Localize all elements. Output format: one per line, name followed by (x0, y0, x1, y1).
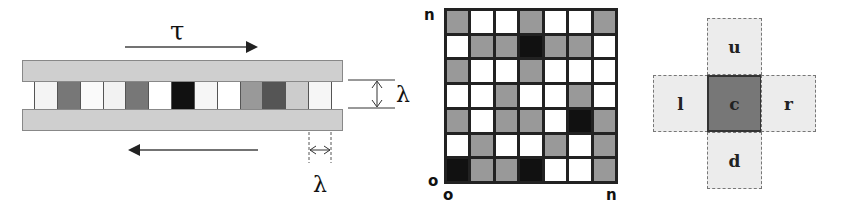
grid-cell (520, 36, 541, 58)
grid-cell (496, 110, 517, 132)
grid-cell (545, 11, 566, 33)
grid-cell (520, 110, 541, 132)
grid-cell (545, 85, 566, 107)
grid-cell (545, 36, 566, 58)
grid-cell (520, 135, 541, 157)
grid-cell (569, 85, 590, 107)
cell-up: u (707, 18, 762, 75)
grid-cell (471, 36, 492, 58)
grid-cell (594, 85, 615, 107)
particle-cell (57, 82, 80, 109)
grid-cell (471, 135, 492, 157)
particle-cell (148, 82, 171, 109)
particle-cell (240, 82, 263, 109)
grid-cell (447, 159, 468, 181)
top-plate (22, 60, 343, 82)
grid-cell (520, 159, 541, 181)
height-lambda-label: λ (396, 84, 410, 106)
y-axis-top-label: n (424, 6, 435, 24)
grid-cell (545, 110, 566, 132)
grid-cell (496, 60, 517, 82)
particle-cell (125, 82, 148, 109)
cell-left: l (653, 75, 708, 132)
grid-cell (471, 11, 492, 33)
grid-cell (594, 11, 615, 33)
grid-cell (471, 110, 492, 132)
particle-cell (285, 82, 308, 109)
grid-cell (545, 135, 566, 157)
grid-cell (471, 85, 492, 107)
grid-cell (594, 60, 615, 82)
grid-cell (496, 135, 517, 157)
particle-cell (262, 82, 285, 109)
particle-cell (171, 82, 194, 109)
grid-cell (545, 159, 566, 181)
grid-cell (594, 110, 615, 132)
grid-cell (520, 60, 541, 82)
grid-cell (520, 85, 541, 107)
grid-cell (447, 36, 468, 58)
grid-cell (447, 135, 468, 157)
grid-cell (471, 159, 492, 181)
cell-center: c (707, 75, 762, 132)
grid-cell (569, 36, 590, 58)
particle-cell (194, 82, 217, 109)
particle-cell (308, 82, 331, 109)
x-axis-end-label: n (606, 186, 617, 204)
particle-cell (217, 82, 240, 109)
grid-cell (447, 11, 468, 33)
grid-cell (520, 11, 541, 33)
cell-down: d (707, 132, 762, 189)
grid-cell (569, 11, 590, 33)
grid-cell (471, 60, 492, 82)
width-lambda-label: λ (313, 174, 327, 196)
grid-cell (496, 85, 517, 107)
x-axis-origin-label: o (443, 186, 453, 204)
grid-cell (594, 159, 615, 181)
bottom-plate (22, 109, 343, 131)
grid-cell (447, 85, 468, 107)
grid-cell (569, 159, 590, 181)
grid-cell (594, 36, 615, 58)
particle-cell (34, 82, 57, 109)
grid-cell (569, 110, 590, 132)
grid-cell (569, 135, 590, 157)
particle-row (34, 82, 332, 109)
particle-cell (103, 82, 126, 109)
y-axis-origin-label: o (428, 172, 438, 190)
cell-right: r (761, 75, 816, 132)
grid-cell (594, 135, 615, 157)
grid-cell (496, 36, 517, 58)
grid-cell (569, 60, 590, 82)
grid-cell (447, 60, 468, 82)
grid-cell (496, 159, 517, 181)
grid-cell (496, 11, 517, 33)
grid-cell (545, 60, 566, 82)
grid-cell (447, 110, 468, 132)
particle-cell (80, 82, 103, 109)
lattice-grid (444, 8, 618, 184)
